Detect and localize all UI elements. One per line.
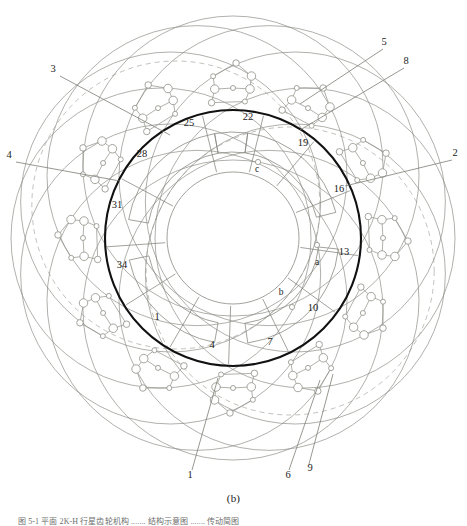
cluster-node	[251, 370, 258, 377]
figure-caption: 图 5-1 平面 2K-H 行星齿轮机构 ....... 结构示意图 .....…	[18, 515, 458, 526]
cluster-node	[365, 213, 372, 220]
cluster-node	[306, 365, 311, 370]
callout-2: 2	[452, 147, 457, 158]
cluster-node	[167, 386, 172, 391]
callout-3: 3	[50, 63, 55, 74]
cluster-node	[378, 251, 387, 259]
ring-segment-end	[215, 134, 218, 154]
callout-4: 4	[6, 149, 12, 160]
cluster-node	[242, 99, 247, 104]
outer-construction-circles	[11, 16, 455, 460]
cluster-node	[94, 224, 99, 229]
cluster-node	[210, 85, 219, 94]
construction-circle	[21, 124, 321, 424]
cluster-node	[247, 383, 256, 392]
cluster-node	[367, 292, 376, 301]
cluster-link	[395, 218, 408, 241]
cluster-node	[233, 60, 240, 67]
callout-1b: 1	[187, 469, 192, 480]
cluster-node	[380, 325, 387, 332]
cluster-node	[145, 82, 152, 89]
mark-13: 13	[339, 246, 350, 257]
cluster-link	[282, 110, 311, 126]
cluster-node	[170, 372, 179, 381]
cluster-node	[279, 107, 286, 114]
cluster-node	[287, 96, 296, 105]
cluster-link	[80, 323, 103, 336]
sub-figure-label: (b)	[0, 492, 467, 504]
cluster-node	[55, 232, 62, 239]
cluster-node	[91, 294, 100, 303]
cluster-node	[405, 238, 412, 245]
cluster-node	[289, 371, 298, 380]
cluster-link	[147, 114, 175, 132]
cluster-node	[140, 354, 149, 363]
radial-spoke-25	[203, 116, 217, 172]
cluster-node	[231, 86, 236, 91]
inner-ring-arc	[248, 249, 339, 343]
mark-10: 10	[308, 302, 319, 313]
cluster-node	[360, 331, 369, 340]
cluster-node	[381, 236, 386, 241]
cluster-node	[123, 321, 130, 328]
cluster-node	[294, 383, 303, 392]
cluster-node	[140, 385, 147, 392]
cluster-node	[152, 348, 157, 353]
ring-segment-end	[129, 220, 149, 223]
cluster-node	[181, 363, 188, 370]
hub-circle	[167, 172, 299, 304]
cluster-node	[336, 149, 343, 156]
mark-19: 19	[298, 137, 309, 148]
cluster-node	[355, 178, 360, 183]
cluster-link	[345, 287, 361, 316]
cluster-node	[80, 217, 89, 226]
cluster-node	[316, 341, 323, 348]
cluster-node	[349, 143, 358, 152]
inner-ring-arc	[129, 134, 215, 220]
mark-34: 34	[117, 259, 128, 270]
cluster-node	[306, 106, 311, 111]
cluster-node	[361, 137, 366, 142]
ring-segment-end	[245, 133, 248, 153]
cluster-node	[343, 314, 348, 319]
cluster-node	[101, 311, 106, 316]
cluster-node	[80, 145, 87, 152]
cluster-link	[339, 152, 357, 180]
cluster-node	[173, 111, 178, 116]
cluster-node	[108, 145, 117, 154]
cluster-node	[100, 334, 105, 339]
cluster-node	[106, 293, 111, 298]
cluster-node	[109, 324, 118, 333]
mark-22: 22	[243, 111, 254, 122]
cluster-node	[67, 215, 76, 224]
point-marker-b	[289, 304, 294, 309]
inner-ring-arc	[248, 133, 336, 212]
cluster-node	[227, 410, 234, 417]
cluster-node	[360, 161, 365, 166]
cluster-node	[79, 299, 88, 308]
mark-16: 16	[334, 183, 345, 194]
cluster-node	[94, 256, 101, 263]
callout-5: 5	[381, 36, 386, 47]
cluster-link	[291, 344, 319, 362]
point-marker-a	[314, 242, 319, 247]
construction-circle	[145, 52, 445, 352]
cluster-node	[118, 157, 123, 162]
leader-line-1	[192, 378, 218, 470]
cluster-node	[392, 216, 397, 221]
leader-line-5	[300, 49, 383, 104]
callout-8: 8	[403, 55, 408, 66]
cluster-node	[294, 85, 299, 90]
mark-31: 31	[112, 199, 123, 210]
cluster-node	[288, 360, 293, 365]
ring-segment-end	[245, 323, 248, 343]
cluster-node	[358, 284, 365, 291]
radial-spoke-4	[229, 306, 231, 364]
point-a: a	[315, 257, 320, 267]
cluster-node	[132, 105, 137, 110]
callout-9: 9	[307, 462, 312, 473]
cluster-node	[250, 397, 255, 402]
leader-line-6	[289, 380, 320, 470]
cluster-node	[156, 106, 161, 111]
